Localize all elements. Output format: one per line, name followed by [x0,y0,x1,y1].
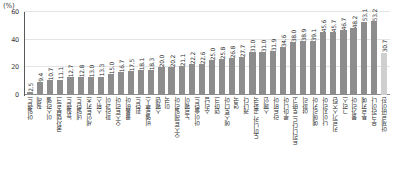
bar[interactable]: 13.0 [88,77,94,95]
bar-value-label: 20.2 [168,54,175,67]
bar-slot: 45.7 [328,12,338,95]
category-label: 그리스 [342,97,349,114]
bar[interactable]: 18.3 [148,70,154,95]
bar[interactable]: 22.6 [199,64,205,95]
bar[interactable]: 2.5 [27,92,33,95]
bar[interactable]: 13.3 [98,77,104,95]
bar-value-label: 10.7 [47,67,54,80]
category-slot: 아제르바이잔 [379,97,389,183]
bar-value-label: 22.6 [198,51,205,64]
y-axis-line [24,12,25,96]
category-slot: 트리니다드 토바고 [291,97,301,183]
category-label: 칠레 [36,97,43,109]
category-label: 콜롬비아 [125,97,132,120]
bar-value-label: 34.6 [279,34,286,47]
bars-container: 2.59.410.711.112.712.813.013.315.016.717… [24,12,390,95]
bar-slot: 12.8 [76,12,86,95]
bar-slot: 2.5 [25,12,35,95]
bar-slot: 31.9 [268,12,278,95]
bar[interactable]: 38.0 [290,42,296,95]
bar-slot: 38.0 [288,12,298,95]
category-label: 루마니아 [283,97,290,120]
bar-value-label: 11.1 [57,66,64,79]
bar[interactable]: 12.7 [67,77,73,95]
category-label: 미국 [164,97,171,109]
bar[interactable]: 39.1 [310,41,316,95]
bar-slot: 12.7 [65,12,75,95]
category-label: 에스토니아 [224,97,231,126]
category-label: 우크라이나 [371,97,378,126]
category-slot: 영국 [232,97,242,183]
bar[interactable]: 15.0 [108,74,114,95]
bar-slot: 18.1 [136,12,146,95]
bar[interactable]: 38.9 [300,41,306,95]
category-slot: 예메리키아 [310,97,320,183]
bar[interactable]: 31.9 [270,51,276,95]
bar-slot: 46.7 [338,12,348,95]
category-label: 수리남 [204,97,211,114]
bar[interactable]: 25.0 [209,60,215,95]
category-label: 키르기스스탄 [332,97,339,132]
bar[interactable]: 30.7 [381,53,387,95]
category-slot: 핀란드 [133,97,143,183]
bar[interactable]: 20.0 [158,67,164,95]
bar[interactable]: 45.7 [330,32,336,95]
category-slot: 콜롬비아 [123,97,133,183]
bar[interactable]: 22.2 [189,64,195,95]
bar[interactable]: 17.5 [128,71,134,95]
bar[interactable]: 53.2 [371,21,377,95]
bar[interactable]: 31.0 [259,52,265,95]
bar[interactable]: 12.8 [78,77,84,95]
category-slot: 세인트키츠 [84,97,94,183]
bar[interactable]: 10.7 [47,80,53,95]
category-label: 영국 [233,97,240,109]
bar-slot: 9.4 [35,12,45,95]
bar[interactable]: 34.6 [280,47,286,95]
category-label: 네덜란드 [76,97,83,120]
bar[interactable]: 27.7 [239,57,245,95]
y-tick-label: 60 [11,9,19,16]
category-label: 핀란드 [135,97,142,114]
category-slot: 파라과이 [104,97,114,183]
bar-slot: 27.7 [237,12,247,95]
y-tick-label: 0 [15,92,19,99]
category-label: 뉴질랜드 [66,97,73,120]
category-label: 트리니다드 토바고 [292,97,299,145]
bar[interactable]: 9.4 [37,82,43,95]
category-slot: 노르웨이 [183,97,193,183]
bar-slot: 31.0 [258,12,268,95]
bar-value-label: 46.7 [340,17,347,30]
bar-slot: 20.0 [156,12,166,95]
bar-value-label: 25.0 [209,47,216,60]
bar[interactable]: 18.1 [138,70,144,95]
bar[interactable]: 20.2 [168,67,174,95]
category-slot: 오스트리아 [114,97,124,183]
bar[interactable]: 48.2 [350,28,356,95]
bar[interactable]: 25.8 [219,59,225,95]
y-tick-label: 40 [11,36,19,43]
bar-value-label: 38.9 [300,28,307,41]
y-axis-tick-labels: 0204060 [0,12,22,95]
bar-slot: 13.3 [96,12,106,95]
category-label: 덴마크 [214,97,221,114]
bar[interactable]: 11.1 [57,80,63,95]
bar[interactable]: 31.0 [249,52,255,95]
bar-value-label: 53.2 [370,8,377,21]
plot-area: 2.59.410.711.112.712.813.013.315.016.717… [24,12,390,95]
bar-value-label: 18.1 [138,57,145,70]
bar[interactable]: 16.7 [118,72,124,95]
bar-slot: 30.7 [379,12,389,95]
bar[interactable]: 26.8 [229,58,235,95]
bar[interactable]: 21.1 [179,66,185,95]
category-slot: 미국 [163,97,173,183]
bar-value-label: 31.0 [249,39,256,52]
category-slot: 키르기스스탄 [330,97,340,183]
bar-slot: 21.1 [177,12,187,95]
bar-value-label: 45.7 [330,19,337,32]
category-label: 아이슬란드 [194,97,201,126]
bar[interactable]: 46.7 [340,30,346,95]
bar[interactable]: 53.1 [361,22,367,95]
category-slot: 칠레 [35,97,45,183]
bar[interactable]: 45.6 [320,32,326,95]
bar-value-label: 13.3 [97,63,104,76]
